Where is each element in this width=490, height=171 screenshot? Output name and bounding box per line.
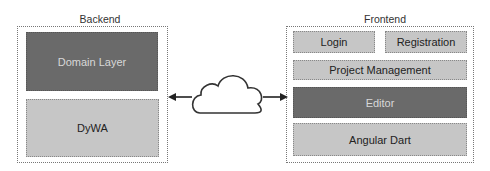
cloud-icon xyxy=(193,76,262,113)
right-arrow xyxy=(263,93,288,101)
connector xyxy=(0,0,490,171)
left-arrow xyxy=(168,93,192,101)
